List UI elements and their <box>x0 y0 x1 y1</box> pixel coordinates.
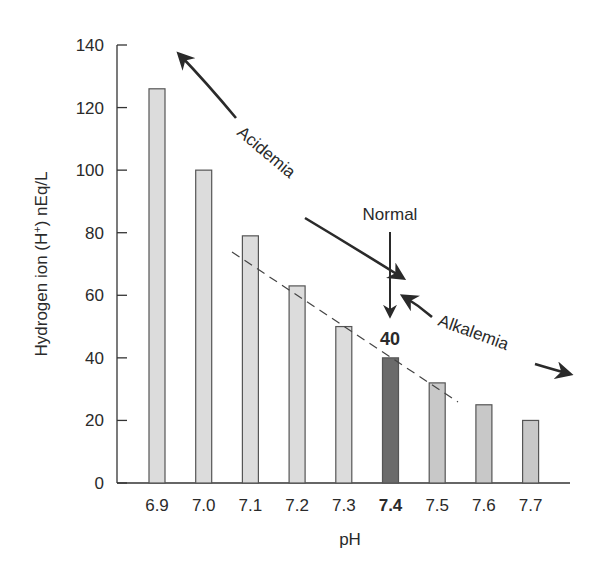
bars <box>149 89 539 483</box>
y-tick-label: 140 <box>76 36 104 55</box>
x-tick-label: 7.5 <box>425 496 449 515</box>
x-axis-title: pH <box>339 530 361 549</box>
x-tick-label: 7.1 <box>239 496 263 515</box>
normal-value-label: 40 <box>380 329 400 349</box>
y-tick-label: 40 <box>85 349 104 368</box>
bar-7.5 <box>429 383 445 483</box>
bar-7.6 <box>476 405 492 483</box>
normal-label: Normal <box>363 205 418 224</box>
x-tick-label: 7.0 <box>192 496 216 515</box>
bar-7.3 <box>336 327 352 483</box>
x-tick-label: 7.4 <box>379 496 403 515</box>
y-axis-title: Hydrogen ion (H+) nEq/L <box>31 171 51 356</box>
x-tick-labels: 6.97.07.17.27.37.47.57.67.7 <box>145 496 542 515</box>
bar-7.1 <box>242 236 258 483</box>
x-tick-label: 7.6 <box>472 496 496 515</box>
x-tick-label: 7.3 <box>332 496 356 515</box>
bar-7.0 <box>196 170 212 483</box>
y-tick-label: 80 <box>85 224 104 243</box>
bar-7.2 <box>289 286 305 483</box>
y-tick-label: 60 <box>85 286 104 305</box>
bar-7.4 <box>383 358 399 483</box>
bar-7.7 <box>523 420 539 483</box>
x-tick-label: 7.2 <box>285 496 309 515</box>
y-tick-label: 100 <box>76 161 104 180</box>
x-tick-label: 6.9 <box>145 496 169 515</box>
y-axis: 020406080100120140 <box>76 36 127 493</box>
y-tick-label: 120 <box>76 99 104 118</box>
alkalemia-label: Alkalemia <box>436 311 512 354</box>
chart: 020406080100120140 6.97.07.17.27.37.47.5… <box>0 0 608 573</box>
bar-6.9 <box>149 89 165 483</box>
acidemia-label: Acidemia <box>233 123 299 183</box>
y-tick-label: 20 <box>85 411 104 430</box>
x-tick-label: 7.7 <box>519 496 543 515</box>
y-tick-label: 0 <box>95 474 104 493</box>
